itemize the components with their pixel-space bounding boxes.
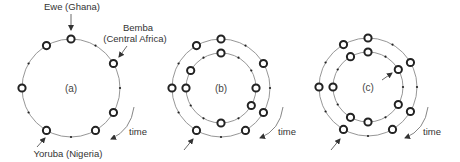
onset-circle-icon: [217, 35, 224, 42]
onset-circle-icon: [193, 42, 200, 49]
onset-circle-icon: [395, 66, 402, 73]
onset-circle-icon: [395, 101, 402, 108]
start-arrow-icon: [331, 139, 340, 150]
panel-b-label: (b): [215, 83, 227, 94]
rest-dot-icon: [402, 86, 404, 88]
bemba-label-line1: Bemba: [123, 22, 154, 33]
onset-circle-icon: [248, 102, 255, 109]
onset-circle-icon: [217, 119, 224, 126]
onset-circle-icon: [364, 118, 371, 125]
onset-circle-icon: [329, 83, 336, 90]
rest-dot-icon: [202, 57, 204, 59]
onset-circle-icon: [92, 127, 99, 134]
onset-circle-icon: [389, 126, 396, 133]
onset-circle-icon: [43, 42, 50, 49]
rest-dot-icon: [324, 110, 326, 112]
rest-dot-icon: [70, 136, 72, 138]
rest-dot-icon: [250, 69, 252, 71]
onset-circle-icon: [252, 84, 259, 91]
onset-circle-icon: [182, 84, 189, 91]
onset-circle-icon: [315, 83, 322, 90]
onset-circle-icon: [67, 35, 74, 42]
panel-a-label: (a): [65, 83, 77, 94]
start-arrow-icon: [184, 139, 193, 150]
rest-dot-icon: [94, 44, 96, 46]
panel-c-label: (c): [362, 82, 374, 93]
onset-circle-icon: [347, 114, 354, 121]
onset-circle-icon: [260, 109, 267, 116]
onset-circle-icon: [168, 84, 175, 91]
onset-circle-icon: [242, 127, 249, 134]
onset-circle-icon: [364, 48, 371, 55]
rest-dot-icon: [27, 111, 29, 113]
rest-dot-icon: [384, 56, 386, 58]
rest-dot-icon: [177, 111, 179, 113]
onset-circle-icon: [18, 84, 25, 91]
onset-circle-icon: [340, 126, 347, 133]
onset-circle-icon: [260, 60, 267, 67]
rest-dot-icon: [237, 57, 239, 59]
onset-circle-icon: [347, 53, 354, 60]
time-label-c: time: [423, 126, 441, 137]
rest-dot-icon: [27, 62, 29, 64]
onset-circle-icon: [43, 127, 50, 134]
bemba-arrow-icon: [119, 46, 127, 57]
rest-dot-icon: [220, 136, 222, 138]
bemba-label-line2: (Central Africa): [103, 33, 166, 44]
rest-dot-icon: [367, 135, 369, 137]
onset-circle-icon: [193, 127, 200, 134]
onset-circle-icon: [407, 59, 414, 66]
rest-dot-icon: [237, 117, 239, 119]
yoruba-arrow-icon: [37, 138, 45, 147]
rest-dot-icon: [244, 44, 246, 46]
yoruba-label: Yoruba (Nigeria): [34, 148, 103, 159]
rest-dot-icon: [324, 61, 326, 63]
rest-dot-icon: [177, 62, 179, 64]
time-label-a: time: [129, 126, 147, 137]
panel-c: (c) time: [315, 34, 441, 150]
inner-start-arrow-icon: [382, 73, 392, 80]
rhythm-necklace-figure: (a) Ewe (Ghana) Bemba (Central Africa) Y…: [0, 0, 460, 162]
ewe-label: Ewe (Ghana): [44, 1, 100, 12]
onset-circle-icon: [110, 60, 117, 67]
onset-circle-icon: [364, 34, 371, 41]
rest-dot-icon: [337, 68, 339, 70]
rest-dot-icon: [119, 87, 121, 89]
onset-circle-icon: [187, 67, 194, 74]
panel-b: (b) time: [168, 35, 296, 150]
onset-circle-icon: [407, 108, 414, 115]
rest-dot-icon: [190, 104, 192, 106]
rest-dot-icon: [384, 116, 386, 118]
rest-dot-icon: [391, 43, 393, 45]
onset-circle-icon: [110, 109, 117, 116]
rest-dot-icon: [337, 103, 339, 105]
rest-dot-icon: [202, 117, 204, 119]
rest-dot-icon: [269, 87, 271, 89]
panel-a: (a) Ewe (Ghana) Bemba (Central Africa) Y…: [18, 1, 166, 159]
onset-circle-icon: [340, 41, 347, 48]
rest-dot-icon: [416, 86, 418, 88]
onset-circle-icon: [217, 49, 224, 56]
time-label-b: time: [278, 126, 296, 137]
